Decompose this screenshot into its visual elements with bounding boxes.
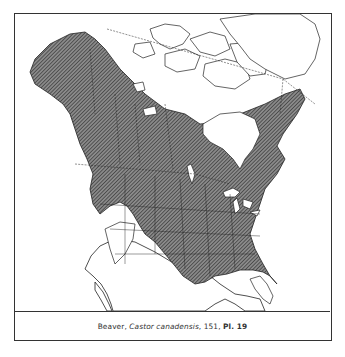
- caption-box: Beaver, Castor canadensis, 151, Pl. 19: [15, 311, 330, 340]
- common-name: Beaver: [98, 322, 125, 331]
- scientific-name: Castor canadensis: [129, 322, 199, 331]
- map-figure-frame: Beaver, Castor canadensis, 151, Pl. 19: [14, 13, 332, 341]
- north-america-map: [15, 14, 330, 311]
- range-map: [15, 14, 330, 311]
- arctic-islands: [133, 14, 320, 89]
- caption: Beaver, Castor canadensis, 151, Pl. 19: [98, 322, 248, 331]
- page-number: 151: [204, 322, 218, 331]
- plate-reference: Pl. 19: [223, 322, 247, 331]
